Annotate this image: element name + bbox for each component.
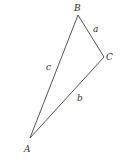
triangle-diagram: B C A a c b: [0, 0, 126, 166]
side-c: [30, 15, 78, 138]
vertex-label-b: B: [73, 3, 81, 13]
vertex-label-a: A: [23, 144, 31, 154]
vertex-label-c: C: [106, 52, 113, 62]
side-label-a: a: [93, 24, 98, 34]
side-label-b: b: [77, 93, 83, 103]
side-b: [30, 57, 104, 138]
side-label-c: c: [46, 62, 51, 72]
side-a: [78, 15, 104, 57]
